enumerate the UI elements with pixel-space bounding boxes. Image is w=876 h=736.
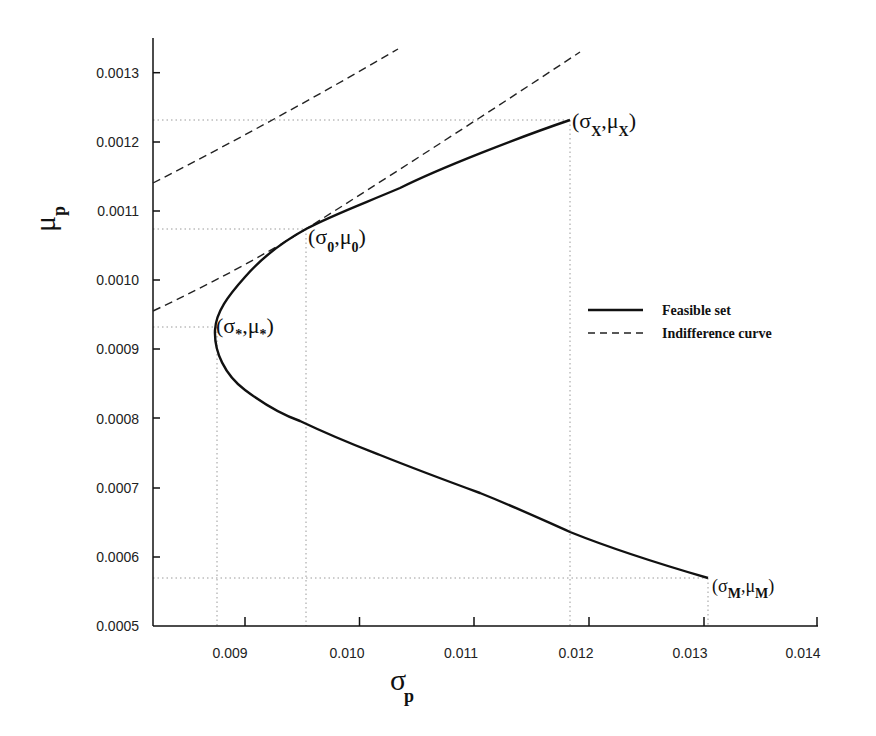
- annotation-sigma0-mu0: (σ0,μ0): [308, 224, 366, 255]
- y-tick-label: 0.0005: [96, 618, 139, 634]
- x-axis-label: σ p: [390, 663, 414, 706]
- reference-lines: [153, 120, 708, 626]
- y-tick-label: 0.0013: [96, 65, 139, 81]
- feasible-set-curve: [215, 120, 708, 578]
- y-tick-label: 0.0010: [96, 272, 139, 288]
- legend: Feasible set Indifference curve: [588, 303, 772, 341]
- legend-label-feasible-set: Feasible set: [662, 303, 731, 318]
- y-tick-label: 0.0011: [97, 203, 139, 219]
- y-axis-label-main: μ: [28, 216, 61, 232]
- x-tick-label: 0.010: [329, 645, 364, 661]
- y-tick-labels: 0.0013 0.0012 0.0011 0.0010 0.0009 0.000…: [96, 65, 139, 634]
- annotation-sigmaX-muX: (σX,μX): [572, 108, 636, 139]
- y-tick-label: 0.0008: [96, 411, 139, 427]
- y-axis-label: μ p: [28, 206, 69, 232]
- legend-label-indifference-curve: Indifference curve: [662, 326, 772, 341]
- indifference-curve-tangent: [153, 52, 580, 311]
- annotation-sigmastar-mustar: (σ*,μ*): [216, 313, 274, 342]
- x-tick-label: 0.012: [558, 645, 593, 661]
- x-tick-label: 0.011: [444, 645, 478, 661]
- y-tick-label: 0.0007: [96, 480, 139, 496]
- x-axis-label-sub: p: [404, 686, 414, 706]
- y-tick-label: 0.0009: [96, 341, 139, 357]
- indifference-curve-upper: [153, 49, 398, 183]
- x-tick-labels: 0.009 0.010 0.011 0.012 0.013 0.014: [212, 645, 820, 661]
- x-tick-label: 0.014: [785, 645, 820, 661]
- y-axis-label-sub: p: [49, 206, 69, 216]
- annotation-sigmaM-muM: (σM,μM): [712, 576, 774, 601]
- x-tick-label: 0.013: [672, 645, 707, 661]
- y-tick-label: 0.0012: [96, 134, 139, 150]
- y-tick-label: 0.0006: [96, 549, 139, 565]
- indifference-curves: [153, 49, 580, 311]
- chart: 0.0013 0.0012 0.0011 0.0010 0.0009 0.000…: [0, 0, 876, 736]
- x-tick-label: 0.009: [212, 645, 247, 661]
